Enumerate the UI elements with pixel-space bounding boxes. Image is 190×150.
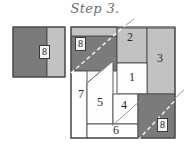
piece-1-shape bbox=[117, 63, 147, 94]
source-rectangle-marker-8: 8 bbox=[39, 45, 50, 59]
piece-top-strip bbox=[71, 27, 117, 36]
piece-3-shape bbox=[147, 28, 175, 94]
piece-2-shape bbox=[117, 28, 147, 63]
piece-7-shape bbox=[71, 71, 87, 138]
marker-8-top-left: 8 bbox=[75, 37, 86, 51]
marker-8-bottom-right: 8 bbox=[157, 118, 168, 132]
diagonal-upper-left-edge-icon bbox=[126, 19, 134, 25]
piece-4-shape bbox=[113, 94, 138, 124]
